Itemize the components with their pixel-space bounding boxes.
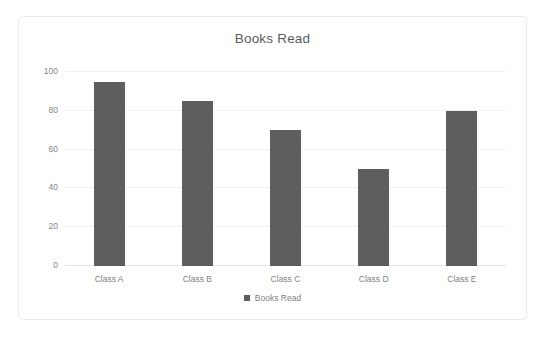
x-axis-category-label: Class C: [271, 275, 301, 284]
y-axis-tick-label: 20: [49, 222, 58, 231]
bar[interactable]: [358, 169, 389, 266]
legend-swatch-books-read: [244, 295, 250, 301]
x-axis-category-label: Class D: [359, 275, 389, 284]
bar[interactable]: [270, 130, 301, 266]
x-axis-category-label: Class A: [95, 275, 124, 284]
bar-slot: Class A: [65, 72, 153, 266]
y-axis-tick-label: 60: [49, 144, 58, 153]
chart-title: Books Read: [19, 31, 526, 46]
bar-slot: Class D: [330, 72, 418, 266]
x-axis-category-label: Class E: [447, 275, 476, 284]
y-axis-tick-label: 40: [49, 183, 58, 192]
chart-legend: Books Read: [19, 294, 526, 303]
chart-card: Books Read 020406080100 Class AClass BCl…: [18, 16, 527, 320]
bar[interactable]: [182, 101, 213, 266]
bar[interactable]: [446, 111, 477, 266]
bar-slot: Class B: [153, 72, 241, 266]
legend-label-books-read: Books Read: [255, 294, 301, 303]
plot-area: 020406080100 Class AClass BClass CClass …: [65, 72, 506, 266]
bar-series: Class AClass BClass CClass DClass E: [65, 72, 506, 266]
x-axis-category-label: Class B: [183, 275, 212, 284]
bar-slot: Class E: [418, 72, 506, 266]
bar-slot: Class C: [241, 72, 329, 266]
y-axis-tick-label: 80: [49, 106, 58, 115]
y-axis-tick-label: 0: [53, 261, 58, 270]
y-axis-tick-label: 100: [44, 67, 58, 76]
bar[interactable]: [94, 82, 125, 266]
